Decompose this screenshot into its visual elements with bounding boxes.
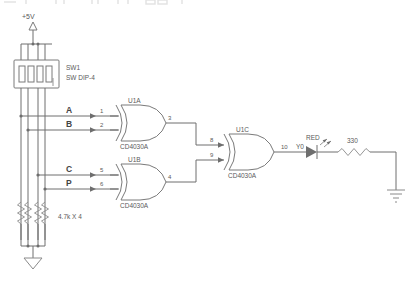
gate-u1c-part: CD4030A xyxy=(228,172,257,179)
led-red xyxy=(306,139,338,159)
led-label: RED xyxy=(306,134,320,141)
gate-u1c-pin-8: 8 xyxy=(210,137,214,143)
pulldown-value-label: 4.7k X 4 xyxy=(58,213,82,220)
signal-label-c: C xyxy=(66,164,72,174)
interconnect-u1a-to-u1c xyxy=(196,123,224,148)
output-net-label: Y0 xyxy=(296,143,304,150)
gate-u1a-part: CD4030A xyxy=(120,143,149,150)
gate-u1a-pin-3: 3 xyxy=(168,115,172,121)
gate-u1c[interactable] xyxy=(224,134,306,170)
gate-u1b-part: CD4030A xyxy=(120,202,149,209)
gate-u1b-pin-4: 4 xyxy=(168,174,172,180)
gate-u1a-pin-2: 2 xyxy=(100,122,104,128)
resistor-330 xyxy=(338,149,396,191)
dip-switch-value: SW DIP-4 xyxy=(66,74,95,81)
gate-u1c-pin-10: 10 xyxy=(281,144,288,150)
gate-u1a[interactable] xyxy=(110,105,196,141)
gate-u1c-reference: U1C xyxy=(236,126,249,133)
gate-u1a-pin-1: 1 xyxy=(100,108,104,114)
power-rail-5v xyxy=(21,22,52,60)
signal-line-c xyxy=(36,172,118,178)
power-rail-label: +5V xyxy=(22,13,35,20)
gate-u1b-pin-5: 5 xyxy=(100,167,104,173)
signal-line-b xyxy=(26,127,118,133)
schematic-drawing: +5V SW1 SW DIP-4 A xyxy=(0,0,418,282)
interconnect-u1b-to-u1c xyxy=(196,157,224,182)
gate-u1c-pin-9: 9 xyxy=(210,152,214,158)
signal-line-p xyxy=(43,186,118,192)
schematic-canvas: +5V SW1 SW DIP-4 A xyxy=(0,0,418,282)
signal-label-b: B xyxy=(66,119,72,129)
signal-label-p: P xyxy=(66,178,72,188)
dip-switch-sw1[interactable] xyxy=(14,60,59,88)
gate-u1b[interactable] xyxy=(110,164,196,200)
pulldown-resistor-array xyxy=(18,202,49,248)
gate-u1a-reference: U1A xyxy=(128,97,141,104)
dip-switch-reference: SW1 xyxy=(66,64,80,71)
resistor-330-value: 330 xyxy=(347,137,358,144)
gate-u1b-reference: U1B xyxy=(128,156,141,163)
signal-label-a: A xyxy=(66,105,72,115)
gate-u1b-pin-6: 6 xyxy=(100,181,104,187)
ground-symbol-right xyxy=(387,190,405,202)
ground-symbol-left xyxy=(24,246,42,269)
